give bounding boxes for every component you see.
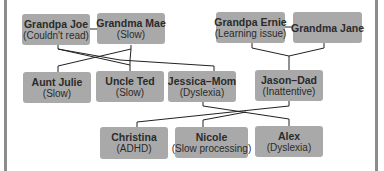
node-note: (Inattentive) — [263, 86, 316, 98]
node-name: Grandma Jane — [291, 22, 364, 34]
node-note: (Dyslexia) — [267, 142, 311, 154]
line-to-jessica — [58, 45, 214, 71]
line-to-ted — [130, 49, 131, 71]
node-note: (Slow) — [116, 87, 144, 99]
node-nicole: Nicole (Slow processing) — [175, 127, 248, 158]
node-name: Alex — [278, 130, 300, 142]
node-note: (ADHD) — [117, 143, 152, 155]
line-to-julie — [58, 45, 131, 72]
node-note: (Dyslexia) — [180, 87, 224, 99]
node-christina: Christina (ADHD) — [100, 127, 168, 159]
node-uncle-ted: Uncle Ted (Slow) — [96, 71, 164, 102]
node-name: Uncle Ted — [105, 75, 154, 87]
node-name: Jason–Dad — [261, 74, 317, 86]
node-aunt-julie: Aunt Julie (Slow) — [23, 72, 91, 103]
node-grandma-jane: Grandma Jane — [293, 12, 362, 43]
node-note: (Couldn't read) — [23, 30, 89, 42]
node-jason-dad: Jason–Dad (Inattentive) — [255, 70, 323, 101]
node-grandma-mae: Grandma Mae (Slow) — [97, 13, 165, 44]
node-grandpa-ernie: Grandpa Ernie (Learning issue) — [216, 12, 285, 43]
node-grandpa-joe: Grandpa Joe (Couldn't read) — [22, 14, 90, 45]
node-note: (Slow processing) — [172, 143, 251, 155]
node-alex: Alex (Dyslexia) — [255, 126, 323, 157]
node-name: Grandpa Ernie — [214, 16, 286, 28]
node-name: Nicole — [196, 131, 228, 143]
node-note: (Slow) — [43, 88, 71, 100]
node-note: (Learning issue) — [215, 28, 287, 40]
node-jessica-mom: Jessica–Mom (Dyslexia) — [168, 71, 236, 102]
node-name: Jessica–Mom — [168, 75, 236, 87]
ernie-jane-bracket — [252, 43, 324, 56]
node-name: Grandpa Joe — [24, 18, 88, 30]
node-name: Grandma Mae — [96, 17, 165, 29]
node-note: (Slow) — [117, 29, 145, 41]
line-to-christina — [137, 101, 289, 127]
node-name: Christina — [111, 131, 157, 143]
node-name: Aunt Julie — [32, 76, 83, 88]
